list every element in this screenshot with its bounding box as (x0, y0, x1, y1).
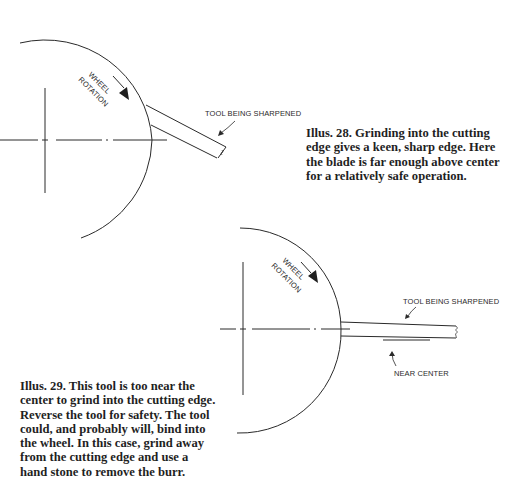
tool-bar (341, 322, 456, 338)
grinding-wheel-arc (20, 40, 152, 238)
caption-line: Illus. 29. This tool is too near the (20, 379, 215, 393)
caption-line: center to grind into the cutting edge. (20, 393, 215, 407)
tool-leader-arrow (408, 307, 416, 316)
tool-leader-arrow (221, 121, 235, 133)
tool-label: TOOL BEING SHARPENED (205, 109, 302, 118)
tool-label: TOOL BEING SHARPENED (403, 297, 500, 306)
caption-line: edge gives a keen, sharp edge. Here (306, 140, 500, 154)
caption-line: Reverse the tool for safety. The tool (20, 408, 215, 422)
near-center-arrowhead-icon (389, 351, 395, 356)
caption-line: for a relatively safe operation. (306, 169, 500, 183)
illus-28-diagram (0, 40, 226, 238)
caption-line: hand stone to remove the burr. (20, 465, 215, 479)
caption-line: from the cutting edge and use a (20, 450, 215, 464)
tool-break-mark (456, 326, 458, 338)
caption-illus-29: Illus. 29. This tool is too near the cen… (20, 379, 215, 479)
rotation-arrow-icon (119, 87, 129, 100)
near-center-label: NEAR CENTER (394, 369, 449, 378)
caption-illus-28: Illus. 28. Grinding into the cutting edg… (306, 126, 500, 183)
caption-line: the blade is far enough above center (306, 155, 500, 169)
caption-line: could, and probably will, bind into (20, 422, 215, 436)
illus-29-diagram (220, 228, 458, 433)
rotation-arrow-shaft (113, 76, 124, 88)
tool-break-mark (221, 150, 223, 155)
tool-leader-arrowhead-icon (218, 130, 224, 136)
caption-line: the wheel. In this case, grind away (20, 436, 215, 450)
caption-line: Illus. 28. Grinding into the cutting (306, 126, 500, 140)
